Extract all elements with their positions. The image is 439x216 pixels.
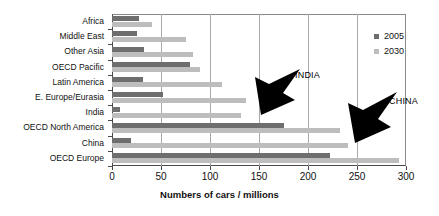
- y-axis-tick-label: OECD Europe: [50, 151, 104, 166]
- x-axis-tick-label: 150: [239, 171, 279, 182]
- bar-group: [112, 44, 406, 59]
- y-axis-tick-label: OECD North America: [23, 120, 104, 135]
- bar-africa-2030: [112, 22, 152, 27]
- x-axis-tick-label: 100: [190, 171, 230, 182]
- bar-china-2005: [112, 138, 131, 143]
- x-axis-title: Numbers of cars / millions: [0, 189, 439, 200]
- x-axis-tick: [161, 166, 162, 170]
- x-axis-tick-label: 0: [92, 171, 132, 182]
- y-axis-tick-label: Africa: [82, 14, 104, 29]
- x-axis-tick: [112, 166, 113, 170]
- bar-group: [112, 29, 406, 44]
- y-axis-tick-label: E. Europe/Eurasia: [35, 90, 104, 105]
- bar-e-europe-eurasia-2030: [112, 98, 246, 103]
- bar-other-asia-2005: [112, 47, 144, 52]
- y-axis-tick-label: Latin America: [53, 75, 105, 90]
- bar-middle-east-2030: [112, 37, 186, 42]
- bar-oecd-pacific-2005: [112, 62, 190, 67]
- x-axis-tick: [210, 166, 211, 170]
- legend-swatch-icon: [374, 34, 379, 39]
- x-axis-tick: [308, 166, 309, 170]
- annotation-arrow-india: [243, 67, 303, 117]
- bar-oecd-north-america-2030: [112, 128, 340, 133]
- y-axis-tick-label: Other Asia: [64, 44, 104, 59]
- bar-latin-america-2005: [112, 77, 143, 82]
- bar-oecd-europe-2030: [112, 158, 399, 163]
- y-axis-tick-label: India: [86, 105, 104, 120]
- y-axis-tick-label: China: [82, 136, 104, 151]
- legend-label: 2030: [384, 47, 404, 56]
- bar-africa-2005: [112, 16, 139, 21]
- x-axis-tick: [259, 166, 260, 170]
- x-axis-tick-label: 50: [141, 171, 181, 182]
- bar-latin-america-2030: [112, 82, 222, 87]
- bar-india-2030: [112, 113, 241, 118]
- bar-oecd-europe-2005: [112, 153, 330, 158]
- bar-group: [112, 14, 406, 29]
- x-axis-tick-label: 200: [288, 171, 328, 182]
- bar-china-2030: [112, 143, 348, 148]
- bar-other-asia-2030: [112, 52, 193, 57]
- x-axis-tick-label: 300: [386, 171, 426, 182]
- bar-e-europe-eurasia-2005: [112, 92, 163, 97]
- y-axis-tick-label: Middle East: [60, 29, 104, 44]
- bar-oecd-pacific-2030: [112, 67, 200, 72]
- annotation-arrow-china: [336, 90, 400, 146]
- legend-label: 2005: [384, 32, 404, 41]
- legend: 20052030: [374, 30, 404, 60]
- bar-middle-east-2005: [112, 31, 137, 36]
- x-axis-tick: [357, 166, 358, 170]
- x-axis-tick-label: 250: [337, 171, 377, 182]
- y-axis-labels: AfricaMiddle EastOther AsiaOECD PacificL…: [0, 14, 108, 166]
- legend-item-2005: 2005: [374, 30, 404, 43]
- x-axis-tick: [406, 166, 407, 170]
- bar-chart: AfricaMiddle EastOther AsiaOECD PacificL…: [0, 0, 439, 216]
- bar-india-2005: [112, 107, 120, 112]
- legend-swatch-icon: [374, 49, 379, 54]
- bar-oecd-north-america-2005: [112, 123, 284, 128]
- legend-item-2030: 2030: [374, 45, 404, 58]
- y-axis-tick-label: OECD Pacific: [52, 60, 104, 75]
- bar-group: [112, 151, 406, 166]
